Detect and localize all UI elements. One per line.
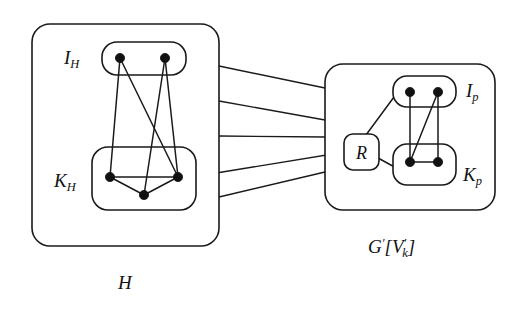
vertex-k-p-1	[405, 157, 414, 166]
node-r-label: R	[355, 143, 367, 163]
caption-h: H	[117, 272, 133, 293]
vertex-i-p-1	[405, 87, 414, 96]
caption-bracket-close: ]	[407, 236, 415, 257]
cross-edge-1	[219, 66, 325, 88]
cross-edge-2	[219, 101, 325, 120]
label-k-h-sub: H	[66, 180, 77, 194]
vertex-k-h-3	[173, 172, 182, 181]
vertex-i-h-1	[115, 53, 124, 62]
group-box-k-p	[393, 144, 456, 185]
figure-root: IH KH H R	[0, 0, 528, 312]
group-box-i-p	[393, 76, 456, 107]
cross-edge-5	[219, 172, 325, 197]
label-k-p-sub: p	[475, 174, 482, 188]
label-i-p-sub: p	[471, 90, 478, 104]
cross-edges-group	[198, 66, 345, 197]
vertex-i-h-2	[160, 53, 169, 62]
vertex-k-h-2	[139, 190, 148, 199]
cross-edge-3	[219, 136, 325, 137]
graph-diagram-svg: IH KH H R	[0, 0, 528, 312]
vertex-i-p-2	[433, 87, 442, 96]
vertex-k-p-2	[433, 157, 442, 166]
vertex-k-h-1	[105, 172, 114, 181]
label-i-h-sub: H	[69, 57, 80, 71]
group-box-i-h	[102, 42, 186, 75]
caption-g-prime: G′[V′k]	[368, 236, 415, 260]
caption-g-main: G	[368, 236, 382, 257]
